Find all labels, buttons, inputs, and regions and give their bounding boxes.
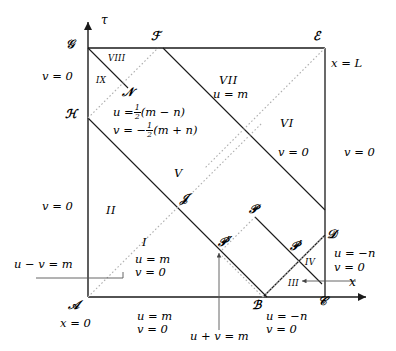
right-boundary-v-zero: v = 0	[344, 146, 375, 159]
point-P-prime-label: 𝒫′	[290, 240, 302, 254]
diagram-line-art	[0, 0, 396, 351]
region-VII-label: VII	[219, 74, 238, 87]
region-VII-equation: u = m	[213, 88, 248, 101]
char-E-downleft	[263, 48, 325, 110]
char-E-B	[263, 48, 325, 297]
region-IX-label: IX	[96, 76, 106, 86]
bottom-callout-condition: u + v = m	[190, 330, 249, 343]
point-N-label: 𝒩	[122, 86, 133, 100]
region-VIII-label: VIII	[108, 54, 125, 64]
region-VI-equation: v = 0	[278, 146, 309, 159]
point-J-label: 𝒥	[180, 192, 188, 206]
point-B-label: ℬ	[252, 299, 261, 313]
region-N-equation-line1: u =12(m − n)	[113, 104, 185, 122]
point-C-label: 𝒞	[318, 295, 327, 309]
region-V-label: V	[174, 167, 183, 180]
char-P-right	[255, 217, 322, 284]
left-callout-condition: u − v = m	[14, 258, 73, 271]
tau-axis-label: τ	[101, 14, 108, 28]
eq-n-v-head: v = −	[113, 123, 146, 137]
eq-n-u-head: u =	[113, 105, 134, 119]
point-E-label: ℰ	[313, 30, 320, 44]
dash-B-P2	[222, 256, 263, 297]
region-II-label: II	[106, 204, 116, 217]
region-I-label: I	[142, 236, 147, 249]
bottom-mid-condition-line2: v = 0	[137, 323, 168, 336]
point-P-dprime-label: 𝒫″	[218, 236, 232, 250]
left-lower-boundary-condition: v = 0	[42, 200, 73, 213]
region-I-equation-line2: v = 0	[135, 266, 166, 279]
bottom-A-condition: x = 0	[60, 317, 91, 330]
eq-n-u-tail: (m − n)	[141, 105, 185, 119]
point-G-label: 𝒢	[66, 38, 75, 52]
x-axis-label: x	[349, 276, 356, 290]
right-top-boundary-condition: x = L	[331, 57, 362, 70]
fraction-one-half-a: 12	[134, 104, 141, 122]
bottom-B-condition-line2: v = 0	[266, 323, 297, 336]
eq-n-v-tail: (m + n)	[153, 123, 197, 137]
region-N-equation-line2: v = −12(m + n)	[113, 122, 197, 140]
point-D-label: 𝒟	[327, 228, 337, 242]
point-F-label: ℱ	[151, 30, 160, 44]
region-III-label: III	[288, 279, 299, 289]
figure-canvas: τ x 𝒢 ℱ ℰ ℋ 𝒟 𝒜 ℬ 𝒞 𝒥 𝒩 𝒫 𝒫′ 𝒫″ I II III…	[0, 0, 396, 351]
region-VI-label: VI	[280, 117, 294, 130]
right-D-condition-line2: v = 0	[334, 261, 365, 274]
point-H-label: ℋ	[65, 108, 77, 122]
point-P-label: 𝒫	[249, 203, 258, 217]
left-upper-boundary-condition: v = 0	[42, 70, 73, 83]
region-IV-label: IV	[305, 258, 315, 268]
right-D-condition-line1: u = −n	[334, 247, 375, 260]
point-A-label: 𝒜	[68, 299, 79, 313]
